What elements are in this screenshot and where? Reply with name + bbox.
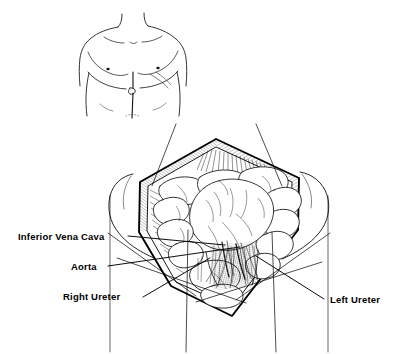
left-nipple [106,68,109,71]
flap-left-inner-fold [123,176,131,209]
right-clavicle [142,36,162,42]
umbilicus [129,88,136,94]
label-right-ureter: Right Ureter [63,292,120,302]
label-inferior-vena-cava: Inferior Vena Cava [18,232,105,242]
lower-abdomen-crease-right [153,103,166,110]
torso-inset [79,13,187,118]
right-pectoral-contour [138,51,178,75]
left-clavicle [104,37,124,43]
flap-right-inner-fold [302,174,312,208]
neck-outline [118,14,122,27]
costal-margin-left [88,72,126,89]
sternal-notch [130,42,137,44]
label-left-ureter: Left Ureter [330,295,380,305]
main-illustration [109,139,329,316]
lower-abdomen-crease-left [100,104,113,111]
neck-outline-right [144,13,148,26]
left-pectoral-contour [88,52,128,76]
label-aorta: Aorta [71,262,97,272]
midline-incision-line-lower [132,93,133,118]
fascia-band-left [139,182,148,232]
right-nipple [156,67,159,70]
subcostal-shading-2 [156,72,171,85]
left-shoulder-and-arm [79,27,118,86]
right-shoulder-and-arm [148,26,187,86]
costal-margin-right [140,71,178,88]
retroperitoneum-shading [210,242,258,290]
right-flank [177,72,180,116]
illustration-page: Inferior Vena Cava Aorta Right Ureter Le… [0,0,407,354]
left-flank [86,73,89,116]
